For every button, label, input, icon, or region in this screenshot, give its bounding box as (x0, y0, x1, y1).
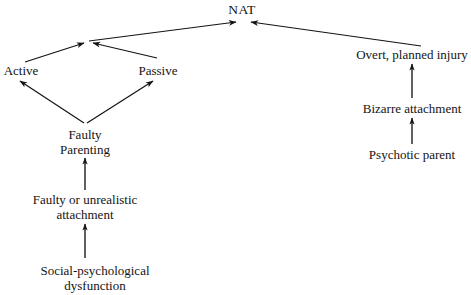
node-faulty-parenting-label-line1: Faulty (60, 128, 110, 143)
node-psychotic-parent-label: Psychotic parent (369, 148, 455, 163)
node-social-dysfunction: Social-psychological dysfunction (40, 264, 149, 293)
node-bizarre-attachment: Bizarre attachment (363, 102, 462, 117)
edge-faulty-parenting-to-passive (87, 81, 153, 123)
node-faulty-attachment-label-line2: attachment (33, 208, 138, 223)
node-faulty-parenting: Faulty Parenting (60, 128, 110, 157)
node-faulty-attachment: Faulty or unrealistic attachment (33, 193, 138, 222)
node-social-dysfunction-label-line2: dysfunction (40, 279, 149, 294)
node-bizarre-attachment-label: Bizarre attachment (363, 102, 462, 117)
node-social-dysfunction-label-line1: Social-psychological (40, 264, 149, 279)
edge-faulty-parenting-to-active (20, 81, 84, 123)
node-overt-injury-label: Overt, planned injury (356, 48, 468, 63)
edge-overt-to-nat (251, 22, 421, 46)
node-overt-injury: Overt, planned injury (356, 48, 468, 63)
node-active: Active (4, 64, 39, 79)
node-faulty-attachment-label-line1: Faulty or unrealistic (33, 193, 138, 208)
edge-junction-to-nat (89, 22, 236, 41)
node-nat: NAT (228, 2, 255, 17)
node-faulty-parenting-label-line2: Parenting (60, 143, 110, 158)
node-passive-label: Passive (139, 64, 178, 79)
edge-active-to-junction (25, 43, 84, 62)
node-passive: Passive (139, 64, 178, 79)
diagram-canvas: NAT Active Passive Faulty Parenting Faul… (0, 0, 471, 295)
node-active-label: Active (4, 64, 39, 79)
edge-passive-to-junction (93, 43, 157, 58)
node-psychotic-parent: Psychotic parent (369, 148, 455, 163)
node-nat-label: NAT (228, 2, 255, 17)
